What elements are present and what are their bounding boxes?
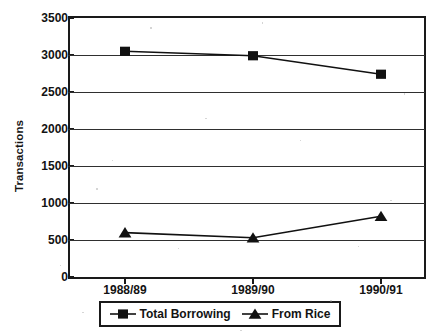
scan-speck: [96, 188, 98, 190]
y-axis-tick-label: 1500: [22, 160, 68, 172]
legend-label: From Rice: [272, 308, 331, 320]
data-point-marker: [248, 51, 258, 60]
y-axis-tick-label: 2000: [22, 123, 68, 135]
x-axis-line: [68, 277, 426, 279]
x-axis-tick-label-2: 1990/91: [331, 283, 431, 297]
scan-speck: [262, 22, 263, 24]
series-2: [119, 211, 388, 243]
scan-speck: [150, 27, 152, 29]
y-axis-tick-label: 500: [22, 234, 68, 246]
data-point-marker: [375, 211, 388, 221]
scan-speck: [112, 160, 113, 161]
scan-speck: [60, 265, 61, 266]
scan-speck: [205, 118, 207, 119]
y-axis-tick-label: 3500: [22, 12, 68, 24]
series-layer: [68, 18, 425, 277]
plot-area: [68, 18, 425, 277]
scan-speck: [240, 330, 242, 331]
x-axis-tick-label-1: 1989/90: [203, 283, 303, 297]
y-axis-tick-label: 2500: [22, 86, 68, 98]
y-axis-tick-label: 0: [22, 271, 68, 283]
y-axis-tick-label: 1000: [22, 197, 68, 209]
scan-speck: [358, 246, 359, 247]
x-axis-tick-label-0: 1988/89: [75, 283, 175, 297]
scan-speck: [390, 200, 392, 201]
scan-speck: [330, 300, 332, 302]
scan-speck: [178, 248, 179, 249]
legend-square-marker-icon: [110, 308, 136, 320]
data-point-marker: [376, 70, 386, 79]
chart-legend: Total BorrowingFrom Rice: [99, 301, 341, 327]
data-point-marker: [120, 47, 130, 56]
legend-triangle-marker-icon: [242, 308, 268, 320]
legend-entry-1: Total Borrowing: [110, 308, 231, 320]
scan-speck: [300, 140, 301, 141]
legend-label: Total Borrowing: [140, 308, 231, 320]
scan-speck: [404, 93, 405, 95]
line-chart: Transactions 050010001500200025003000350…: [0, 0, 436, 333]
series-1: [120, 47, 386, 79]
scan-speck: [82, 312, 84, 313]
y-axis-tick-label: 3000: [22, 49, 68, 61]
legend-entry-2: From Rice: [242, 308, 331, 320]
